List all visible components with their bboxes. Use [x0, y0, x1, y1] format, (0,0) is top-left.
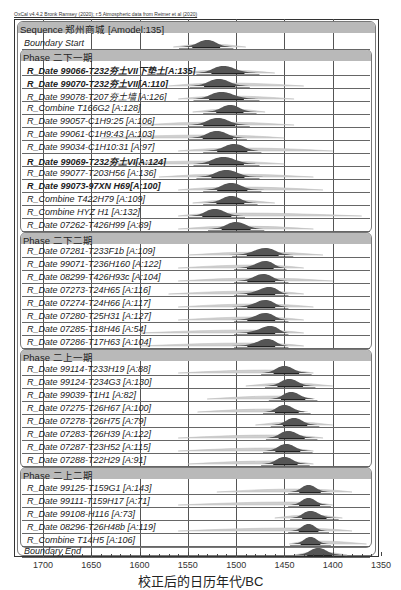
minor-tick — [284, 552, 285, 556]
prior-distribution — [178, 265, 304, 268]
row-divider — [22, 179, 370, 180]
prior-distribution — [217, 489, 352, 492]
row-divider — [22, 192, 370, 193]
minor-tick — [226, 554, 227, 556]
tick-label: 1500 — [226, 560, 246, 570]
row-divider — [22, 101, 370, 102]
row-label: R_Date 99034-C1H10:31 [A:97] — [27, 142, 155, 152]
row-label: R_Date 07286-T17H63 [A:104] — [27, 337, 151, 347]
row-divider — [22, 557, 370, 558]
row-divider — [22, 231, 370, 232]
row-label: R_Combine T14H5 [A:106] — [27, 535, 135, 545]
row-divider — [22, 127, 370, 128]
minor-tick — [130, 554, 131, 556]
row-label: R_Combine HYZ H1 [A:132] — [27, 207, 140, 217]
row-label: R_Date 07280-T25H31 [A:127] — [27, 311, 151, 321]
minor-tick — [149, 554, 150, 556]
minor-tick — [91, 552, 92, 556]
row-divider — [22, 533, 370, 534]
row-label: R_Date 07281-T233F1b [A:109] — [27, 246, 155, 256]
tick-label: 1700 — [33, 560, 53, 570]
row-label: R_Date 99125-T159G1 [A:143] — [27, 483, 152, 493]
minor-tick — [72, 554, 73, 556]
row-divider — [22, 494, 370, 495]
minor-tick — [53, 554, 54, 556]
row-divider — [22, 375, 370, 376]
row-divider — [22, 218, 370, 219]
minor-tick — [313, 554, 314, 556]
row-label: R_Combine T422H79 [A:109] — [27, 194, 145, 204]
row-label: R_Date 99071-T236H160 [A:122] — [27, 259, 161, 269]
minor-tick — [255, 554, 256, 556]
row-divider — [22, 166, 370, 167]
row-divider — [22, 270, 370, 271]
minor-tick — [217, 554, 218, 556]
tick-label: 1600 — [130, 560, 150, 570]
minor-tick — [82, 554, 83, 556]
row-label: R_Date 99108-H116 [A:73] — [27, 509, 135, 519]
row-divider — [22, 453, 370, 454]
row-divider — [22, 427, 370, 428]
minor-tick — [159, 554, 160, 556]
minor-tick — [101, 554, 102, 556]
minor-tick — [198, 554, 199, 556]
row-label: R_Date 08296-T26H48b [A:119] — [27, 522, 155, 532]
row-label: R_Date 99039-T1H1 [A:82] — [27, 390, 136, 400]
row-divider — [22, 140, 370, 141]
row-divider — [22, 283, 370, 284]
row-divider — [22, 322, 370, 323]
minor-tick — [43, 552, 44, 556]
minor-tick — [342, 554, 343, 556]
row-label: R_Date 07275-T26H67 [A:100] — [27, 403, 151, 413]
row-label: Boundary Start — [24, 38, 84, 48]
tick-label: 1650 — [81, 560, 101, 570]
prior-distribution — [178, 528, 352, 531]
row-divider — [22, 440, 370, 441]
minor-tick — [111, 554, 112, 556]
minor-tick — [265, 554, 266, 556]
minor-tick — [304, 554, 305, 556]
minor-tick — [120, 554, 121, 556]
row-divider — [22, 205, 370, 206]
minor-tick — [140, 552, 141, 556]
phase-label: Phase 二上二期 — [23, 468, 93, 482]
minor-tick — [246, 554, 247, 556]
tick-label: 1350 — [371, 560, 391, 570]
row-label: R_Date 99111-T159H17 [A:71] — [27, 496, 150, 506]
row-label: R_Date 99077-T203H56 [A:136] — [27, 168, 156, 178]
row-divider — [22, 257, 370, 258]
x-axis-label: 校正后的日历年代/BC — [0, 571, 401, 590]
row-divider — [22, 466, 370, 467]
row-divider — [22, 75, 370, 76]
row-label: R_Date 99061-C1H9:43 [A:103] — [27, 129, 155, 139]
minor-tick — [323, 554, 324, 556]
minor-tick — [188, 552, 189, 556]
row-label: R_Date 08299-T426H93c [A:104] — [27, 272, 161, 282]
row-divider — [22, 507, 370, 508]
row-divider — [22, 414, 370, 415]
minor-tick — [381, 552, 382, 556]
row-label: R_Date 99057-C1H9:25 [A:106] — [27, 116, 155, 126]
row-divider — [22, 335, 370, 336]
row-label: R_Date 07285-T18H46 [A:54] — [27, 324, 146, 334]
row-divider — [22, 153, 370, 154]
row-label: R_Date 99073-97XN H69[A:100] — [27, 181, 161, 191]
minor-tick — [178, 554, 179, 556]
row-label: R_Date 07262-T426H99 [A:89] — [27, 220, 151, 230]
row-divider — [22, 520, 370, 521]
phase-label: Phase 二上一期 — [23, 350, 93, 364]
row-label: R_Combine T166G2 [A:128] — [27, 103, 141, 113]
minor-tick — [275, 554, 276, 556]
row-label: R_Date 07287-T23H52 [A:115] — [27, 442, 150, 452]
minor-tick — [352, 554, 353, 556]
minor-tick — [207, 554, 208, 556]
row-divider — [22, 114, 370, 115]
row-divider — [22, 401, 370, 402]
row-label: R_Date 99124-T234G3 [A:130] — [27, 377, 152, 387]
minor-tick — [169, 554, 170, 556]
minor-tick — [236, 552, 237, 556]
tick-label: 1400 — [323, 560, 343, 570]
row-divider — [22, 388, 370, 389]
minor-tick — [371, 554, 372, 556]
row-divider — [22, 348, 370, 349]
